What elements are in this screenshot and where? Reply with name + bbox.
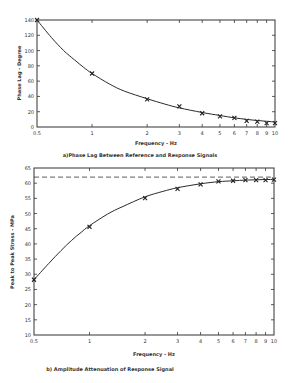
y-tick-label: 55 [25, 195, 31, 201]
amplitude-ticks: 0.512345678910101520253035404550556065 [25, 165, 278, 344]
x-tick-label: 2 [146, 130, 149, 136]
x-tick-label: 0.5 [30, 338, 38, 344]
y-tick-label: 35 [25, 256, 31, 262]
figure: 0.512345678910020406080100120140 Frequen… [0, 0, 289, 383]
amplitude-attenuation-chart: 0.512345678910101520253035404550556065 F… [9, 165, 277, 373]
x-tick-label: 10 [271, 338, 277, 344]
y-tick-label: 40 [25, 241, 31, 247]
x-tick-label: 3 [178, 130, 181, 136]
y-tick-label: 120 [24, 32, 34, 38]
phase-plot-frame [37, 20, 275, 127]
y-tick-label: 15 [25, 317, 31, 323]
x-tick-label: 8 [256, 130, 259, 136]
x-tick-label: 7 [245, 130, 248, 136]
x-tick-label: 5 [218, 130, 221, 136]
x-tick-label: 8 [255, 338, 258, 344]
amplitude-plot-frame [34, 168, 274, 335]
fitted-curve [37, 20, 275, 122]
x-tick-label: 3 [176, 338, 179, 344]
x-tick-label: 0.5 [33, 130, 41, 136]
y-tick-label: 40 [28, 93, 34, 99]
y-tick-label: 80 [28, 63, 34, 69]
phase-chart-caption: a)Phase Lag Between Reference and Respon… [63, 152, 218, 159]
amplitude-y-axis-title: Peak to Peak Stress - MPa [9, 215, 15, 289]
y-tick-label: 20 [28, 109, 34, 115]
x-tick-label: 7 [244, 338, 247, 344]
y-tick-label: 0 [31, 124, 34, 130]
x-tick-label: 5 [217, 338, 220, 344]
y-tick-label: 10 [25, 332, 31, 338]
phase-lag-chart: 0.512345678910020406080100120140 Frequen… [16, 17, 278, 159]
phase-x-axis-title: Frequency - Hz [135, 140, 177, 147]
x-tick-label: 2 [143, 338, 146, 344]
y-tick-label: 30 [25, 271, 31, 277]
data-point-marker [264, 178, 268, 182]
x-tick-label: 1 [90, 130, 93, 136]
y-tick-label: 65 [25, 165, 31, 171]
x-tick-label: 1 [88, 338, 91, 344]
x-tick-label: 6 [231, 338, 234, 344]
amplitude-data [32, 177, 276, 282]
x-tick-label: 9 [264, 338, 267, 344]
phase-y-axis-title: Phase Lag - Degree [16, 45, 23, 100]
amplitude-x-axis-title: Frequency - Hz [133, 351, 175, 358]
fitted-curve [34, 180, 274, 280]
y-tick-label: 140 [24, 17, 34, 23]
y-tick-label: 60 [28, 78, 34, 84]
x-tick-label: 9 [265, 130, 268, 136]
x-tick-label: 4 [199, 338, 202, 344]
y-tick-label: 60 [25, 180, 31, 186]
amplitude-chart-caption: b) Amplitude Attenuation of Response Sig… [46, 366, 174, 373]
x-tick-label: 10 [272, 130, 278, 136]
x-tick-label: 4 [201, 130, 204, 136]
y-tick-label: 100 [24, 48, 34, 54]
y-tick-label: 20 [25, 302, 31, 308]
y-tick-label: 50 [25, 211, 31, 217]
y-tick-label: 25 [25, 286, 31, 292]
phase-data [35, 18, 277, 125]
x-tick-label: 6 [233, 130, 236, 136]
y-tick-label: 45 [25, 226, 31, 232]
